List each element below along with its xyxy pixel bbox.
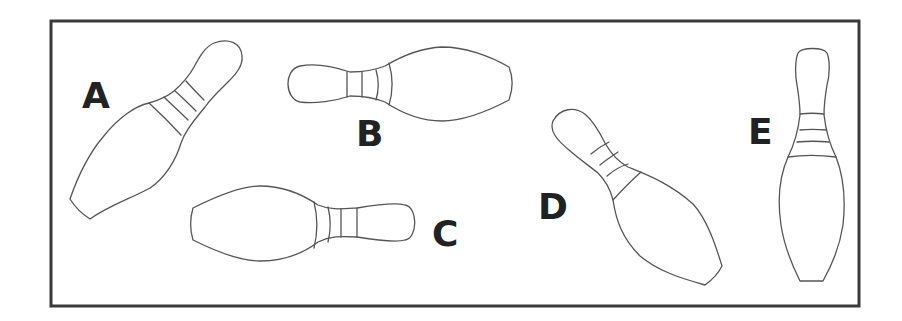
pin-e-stripe bbox=[797, 141, 829, 142]
pin-label-d: D bbox=[538, 186, 568, 227]
pin-e-stripe bbox=[800, 129, 826, 130]
pin-e-stripe bbox=[800, 113, 824, 114]
pin-label-a: A bbox=[82, 75, 110, 116]
pin-label-b: B bbox=[356, 113, 383, 154]
bowling-pins-figure: A B C D E bbox=[0, 0, 902, 321]
pin-label-c: C bbox=[432, 213, 458, 254]
pin-label-e: E bbox=[748, 111, 773, 152]
